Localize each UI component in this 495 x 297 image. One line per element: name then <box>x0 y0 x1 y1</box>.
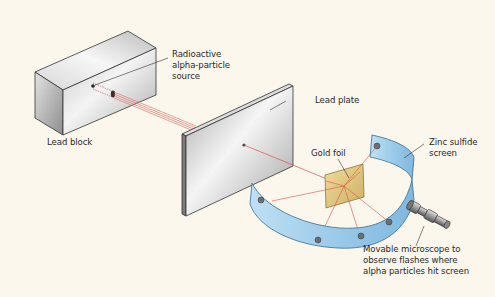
lead-plate <box>182 84 293 216</box>
zinc-sulfide-screen-back <box>370 135 414 180</box>
lead-block <box>35 31 156 135</box>
movable-microscope <box>405 199 451 230</box>
label-zinc-sulfide-screen: Zinc sulfide screen <box>429 137 477 159</box>
label-lead-block: Lead block <box>47 137 92 148</box>
microscope-leader-line <box>416 226 424 246</box>
label-alpha-source: Radioactive alpha-particle source <box>172 49 230 82</box>
label-microscope: Movable microscope to observe flashes wh… <box>363 244 469 277</box>
label-gold-foil: Gold foil <box>311 148 346 159</box>
label-lead-plate: Lead plate <box>315 95 359 106</box>
